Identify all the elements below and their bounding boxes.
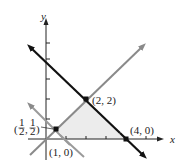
- svg-text:(: (: [14, 123, 18, 136]
- y-ticks: [46, 43, 50, 119]
- label-point-1-0: (1, 0): [49, 146, 73, 159]
- svg-text:,: ,: [25, 123, 28, 135]
- svg-text:2: 2: [19, 125, 25, 137]
- point-2-2: [84, 97, 89, 102]
- label-point-2-2: (2, 2): [92, 94, 116, 107]
- label-point-4-0: (4, 0): [130, 124, 154, 137]
- svg-text:): ): [36, 123, 40, 136]
- point-4-0: [124, 137, 129, 142]
- point-half-half: [54, 127, 59, 132]
- svg-text:2: 2: [30, 125, 36, 137]
- x-axis-label: x: [169, 133, 175, 145]
- feasible-region-diagram: y x (2, 2) (4, 0) (1, 0) ( 1 2 , 1 2 ): [0, 0, 188, 168]
- y-axis-label: y: [40, 10, 46, 22]
- line-x-plus-y-eq-4-tail: [120, 133, 144, 156]
